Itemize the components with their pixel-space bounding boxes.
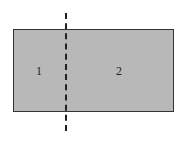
region-label-1: 1: [36, 64, 42, 79]
dashed-divider-line: [65, 13, 67, 131]
region-label-2: 2: [116, 64, 122, 79]
